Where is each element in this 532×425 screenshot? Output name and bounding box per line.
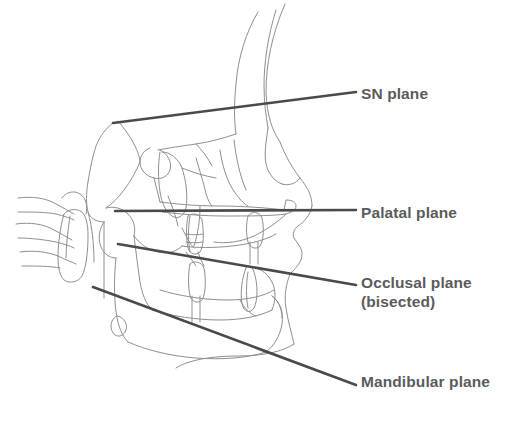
lower-incisor-root [247,272,249,308]
condyle-head [99,222,116,258]
lower-lip-soft-tissue [290,238,302,274]
upper-molar [247,212,264,248]
cranial-base-posterior [118,121,140,162]
palatal-plane-label: Palatal plane [361,203,457,222]
occlusal-plane-line [118,244,356,285]
anterior-cranial-base [158,134,236,150]
clivus [106,162,140,208]
reference-planes-group [93,92,356,385]
orbital-floor [196,144,212,166]
frontal-bone-inner [264,10,276,128]
nasal-tip-columella [282,178,300,185]
nasal-cavity-wall [220,150,248,206]
hard-palate-lower [162,212,286,216]
cervical-vertebra-2 [16,223,72,240]
nose-profile [280,142,312,206]
anterior-nasal-spine [284,200,296,214]
cervical-vertebra-1 [18,197,74,214]
cervical-vertebra-3b [22,266,60,268]
vertebral-body-stack [58,210,88,283]
nasal-cavity-floor [196,158,212,206]
chin-soft-tissue [285,274,294,344]
symphysis-inner [256,268,275,310]
pharyngeal-airway [194,206,200,246]
cervical-vertebra-2b [18,238,74,248]
sn-plane-label: SN plane [361,84,428,103]
occipital-contour [88,123,113,182]
forehead-soft-tissue [266,4,285,142]
cervical-vertebra-1b [18,212,74,220]
upper-incisor-cej2 [186,242,203,243]
odontoid-process [62,192,87,214]
upper-molar-roots [250,242,258,264]
nasal-bridge [265,128,282,184]
cephalometric-figure: SN plane Palatal plane Occlusal plane(bi… [0,0,532,425]
occlusal-plane-label-line1: Occlusal plane [361,274,472,291]
cranial-vault-contour [235,12,259,134]
palatal-plane-line [115,210,356,211]
upper-incisor-cej [186,234,203,235]
mandibular-plane-line [93,287,356,385]
occlusal-plane-label: Occlusal plane(bisected) [361,273,472,311]
hard-palate-upper [160,202,284,210]
lower-molar [189,262,206,302]
occlusal-plane-label-line2: (bisected) [361,293,435,310]
soft-palate [214,214,286,243]
cervical-vertebra-3 [20,251,76,264]
mandibular-plane-label: Mandibular plane [361,372,490,391]
neck-soft-tissue [88,212,94,262]
lower-incisor-crown [241,266,257,312]
nasal-septum [234,140,246,190]
